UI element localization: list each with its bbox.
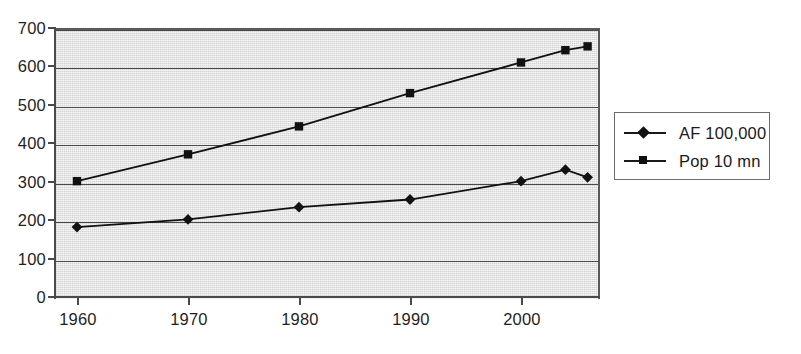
y-tick-mark-200 [48, 219, 55, 221]
y-axis-tick-label: 300 [2, 174, 46, 190]
gridline-200 [55, 222, 598, 223]
y-axis-tick-label: 100 [2, 251, 46, 267]
x-tick-mark-1980 [299, 297, 301, 305]
y-tick-mark-100 [48, 258, 55, 260]
gridline-100 [55, 261, 598, 262]
x-axis-tick-label: 2000 [487, 310, 557, 328]
gridline-300 [55, 184, 598, 185]
gridline-700 [55, 30, 598, 31]
x-tick-mark-2000 [521, 297, 523, 305]
gridline-500 [55, 107, 598, 108]
x-axis-tick-label: 1980 [265, 310, 335, 328]
legend-entry-pop: Pop 10 mn [624, 149, 761, 173]
plot-area [55, 28, 600, 299]
legend-label: Pop 10 mn [679, 152, 761, 170]
diamond-marker-icon [624, 125, 666, 141]
y-tick-mark-300 [48, 181, 55, 183]
x-axis-tick-label: 1960 [43, 310, 113, 328]
chart-legend: AF 100,000 Pop 10 mn [614, 112, 770, 180]
y-axis-tick-label: 500 [2, 97, 46, 113]
y-tick-mark-500 [48, 104, 55, 106]
square-marker-icon [624, 153, 666, 169]
gridline-600 [55, 68, 598, 69]
line-chart: 700 600 500 400 300 200 100 0 1960 1970 … [0, 0, 801, 354]
gridline-400 [55, 145, 598, 146]
y-axis-tick-label: 200 [2, 212, 46, 228]
y-tick-mark-0 [48, 296, 55, 298]
y-tick-mark-600 [48, 65, 55, 67]
y-axis-tick-label: 600 [2, 58, 46, 74]
x-tick-mark-1970 [188, 297, 190, 305]
x-axis-line [54, 296, 600, 298]
x-tick-mark-1990 [410, 297, 412, 305]
y-tick-mark-400 [48, 142, 55, 144]
x-axis-tick-label: 1990 [376, 310, 446, 328]
legend-entry-af: AF 100,000 [624, 121, 766, 145]
y-axis-tick-label: 0 [2, 289, 46, 305]
y-tick-mark-700 [48, 27, 55, 29]
legend-label: AF 100,000 [679, 124, 766, 142]
y-axis-tick-label: 700 [2, 20, 46, 36]
x-axis-tick-label: 1970 [154, 310, 224, 328]
y-axis-tick-label: 400 [2, 135, 46, 151]
x-tick-mark-1960 [77, 297, 79, 305]
